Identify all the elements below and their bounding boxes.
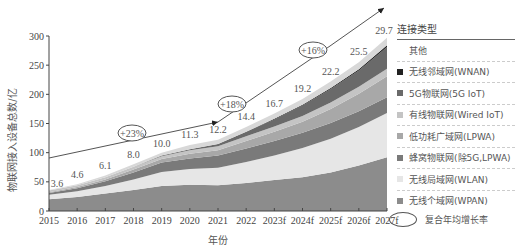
legend-cagr-label: 复合年均增长率 [425,213,488,226]
legend-swatch-icon [397,133,403,139]
legend-swatch-icon [397,69,403,75]
total-label: 22.2 [322,66,340,77]
total-label: 3.6 [51,178,64,189]
x-tick-label: 2023f [263,215,287,226]
y-axis-title: 物联网接入设备总数/亿 [6,88,18,191]
y-tick-label: 150 [29,118,44,129]
x-tick-label: 2020 [180,215,200,226]
legend-swatch-icon [397,47,403,53]
legend-swatch-icon [397,176,403,182]
legend-title: 连接类型 [397,22,515,40]
total-label: 19.2 [294,83,312,94]
x-tick-label: 2019 [152,215,172,226]
total-label: 12.2 [209,124,227,135]
legend-swatch-icon [397,155,403,161]
x-tick-label: 2026f [347,215,371,226]
y-tick-label: 200 [29,89,44,100]
total-label: 14.4 [237,111,255,122]
legend-item: 低功耗广域网(LPWA) [397,126,515,148]
total-label: 16.7 [266,98,284,109]
y-tick-label: 300 [29,31,44,42]
legend-swatch-icon [397,198,403,204]
legend-label: 低功耗广域网(LPWA) [409,130,495,143]
legend-item: 有线物联网(Wired IoT) [397,105,515,127]
cagr-label: +23% [120,128,144,139]
legend-swatch-icon [397,112,403,118]
x-tick-label: 2024f [291,215,315,226]
x-tick-label: 2021 [208,215,228,226]
total-label: 25.5 [350,46,368,57]
legend-cagr: 复合年均增长率 [397,212,515,227]
total-label: 11.3 [181,129,198,140]
total-label: 29.7 [375,25,393,36]
x-tick-label: 2016 [67,215,87,226]
total-label: 10.0 [153,138,171,149]
x-tick-label: 2018 [124,215,144,226]
y-tick-label: 50 [34,176,44,187]
legend-item: 无线邻域网(WNAN) [397,62,515,84]
x-tick-label: 2025f [319,215,343,226]
x-tick-label: 2017 [95,215,115,226]
x-tick-label: 2022 [236,215,256,226]
legend-label: 无线邻域网(WNAN) [409,65,490,78]
legend-item: 无线局域网(WLAN) [397,169,515,191]
x-axis-title: 年份 [208,234,228,246]
legend-item: 蜂窝物联网(除5G,LPWA) [397,148,515,170]
ellipse-icon [389,212,417,227]
legend-swatch-icon [397,90,403,96]
cagr-label: +18% [220,99,244,110]
legend-label: 5G物联网(5G IoT) [409,87,485,100]
legend-label: 无线个域网(WPAN) [409,194,488,207]
total-label: 4.6 [71,169,84,180]
legend-label: 无线局域网(WLAN) [409,173,488,186]
legend: 连接类型 其他无线邻域网(WNAN)5G物联网(5G IoT)有线物联网(Wir… [397,22,515,227]
y-tick-label: 100 [29,147,44,158]
x-tick-label: 2015 [39,215,59,226]
y-tick-label: 250 [29,60,44,71]
legend-label: 其他 [409,44,427,57]
legend-item: 无线个域网(WPAN) [397,191,515,212]
legend-item: 其他 [397,40,515,62]
total-label: 6.1 [99,160,112,171]
total-label: 8.0 [127,149,140,160]
legend-label: 有线物联网(Wired IoT) [409,108,504,121]
legend-item: 5G物联网(5G IoT) [397,83,515,105]
legend-label: 蜂窝物联网(除5G,LPWA) [409,151,511,164]
cagr-label: +16% [301,45,325,56]
